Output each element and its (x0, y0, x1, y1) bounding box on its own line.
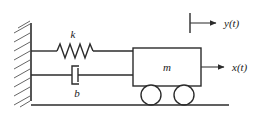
wheel-left (141, 85, 161, 105)
wheel-right (174, 85, 194, 105)
wheels (141, 85, 194, 105)
x-displacement-label: x(t) (231, 61, 248, 74)
spring (31, 44, 133, 58)
mass-spring-damper-diagram: k b m (0, 0, 264, 122)
wall-hatching (14, 21, 30, 107)
y-displacement-label: y(t) (223, 17, 240, 30)
mass-label: m (163, 61, 171, 73)
fixed-wall (14, 21, 31, 107)
spring-coils (57, 44, 93, 58)
damping-coefficient-label: b (74, 87, 80, 99)
y-arrow (190, 13, 216, 33)
spring-stiffness-label: k (71, 28, 77, 40)
diagram-canvas: k b m (0, 0, 264, 122)
dashpot-damper (31, 66, 133, 84)
